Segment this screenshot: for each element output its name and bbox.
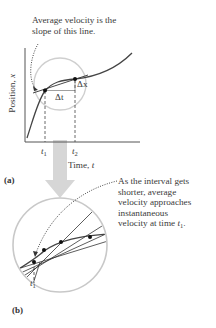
- t2-label: t2: [72, 146, 78, 160]
- secant-lines-b: [14, 209, 108, 300]
- point-t1: [43, 89, 47, 93]
- delta-x-label: Δx: [77, 79, 88, 90]
- panel-b-tag: (b): [12, 305, 23, 315]
- magnifier-circle-b: [13, 198, 107, 292]
- x-axis-label: Time, t: [68, 160, 94, 171]
- t1-label: t1: [41, 146, 47, 160]
- point-b-3: [59, 240, 63, 244]
- position-curve: [27, 53, 132, 138]
- panel-b-t1-label: t1: [30, 278, 36, 292]
- annotation-top-line1: Average velocity is the: [32, 15, 116, 26]
- annotation-bottom: As the interval gets shorter, average ve…: [118, 176, 191, 232]
- annotation-top-line2: slope of this line.: [32, 26, 116, 37]
- panel-a-tag: (a): [4, 175, 15, 185]
- annotation-top: Average velocity is the slope of this li…: [32, 15, 116, 36]
- delta-t-label: Δt: [55, 92, 63, 103]
- point-b-t1: [32, 260, 36, 264]
- y-axis-label: Position, x: [7, 65, 18, 121]
- point-b-2: [42, 248, 46, 252]
- point-b-4: [88, 235, 92, 239]
